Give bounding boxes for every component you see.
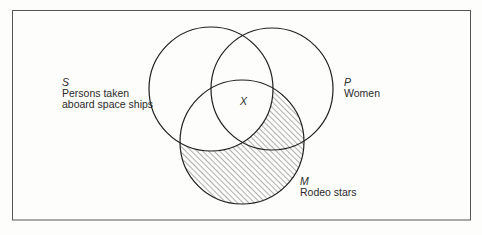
marker-x: X	[240, 96, 247, 107]
venn-diagram	[0, 0, 482, 235]
set-s-label-line2: aboard space ships	[62, 99, 153, 110]
set-p-label: Women	[344, 88, 380, 99]
set-m-label: Rodeo stars	[300, 187, 357, 198]
